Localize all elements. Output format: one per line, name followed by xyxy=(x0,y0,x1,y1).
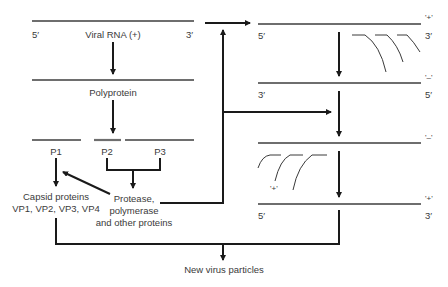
strand1-left-end: 5′ xyxy=(258,30,265,41)
capsid-label-line2: VP1, VP2, VP3, VP4 xyxy=(12,203,100,214)
nascent-minus-strand-3 xyxy=(397,35,420,52)
p2-p3-bracket xyxy=(107,158,160,170)
polyprotein-label: Polyprotein xyxy=(89,87,137,98)
strand1-right-end: 3′ xyxy=(425,30,432,41)
strand2-sense: '–' xyxy=(425,72,433,83)
nascent-plus-strand-2 xyxy=(275,155,303,181)
nascent-plus-strand-3 xyxy=(293,155,327,190)
strand1-sense: '+' xyxy=(425,12,433,23)
nascent-minus-strand-1 xyxy=(352,35,386,72)
progeny-rna-to-assembly-line xyxy=(223,210,339,244)
replication-diagram xyxy=(0,0,448,287)
protease-label-line2: polymerase xyxy=(109,205,158,216)
new-virus-particles-label: New virus particles xyxy=(184,264,264,275)
p3-label: P3 xyxy=(154,146,166,157)
strand4-left-end: 5′ xyxy=(258,210,265,221)
strand4-sense: '+' xyxy=(425,193,433,204)
nascent-plus-label: '+' xyxy=(270,183,278,194)
capsid-label-line1: Capsid proteins xyxy=(23,191,89,202)
nascent-plus-strand-1 xyxy=(258,155,281,168)
nascent-minus-strand-2 xyxy=(375,35,403,62)
viral-rna-label: Viral RNA (+) xyxy=(85,29,141,40)
protease-label-line1: Protease, xyxy=(114,193,155,204)
viral-rna-5prime: 5′ xyxy=(32,29,39,40)
strand4-right-end: 3′ xyxy=(425,210,432,221)
strand3-sense: '–' xyxy=(425,132,433,143)
p2-label: P2 xyxy=(101,146,113,157)
protease-to-replication-line xyxy=(160,30,223,203)
strand2-left-end: 3′ xyxy=(258,89,265,100)
viral-rna-3prime: 3′ xyxy=(186,29,193,40)
strand2-right-end: 5′ xyxy=(425,89,432,100)
p1-label: P1 xyxy=(50,146,62,157)
protease-label-line3: and other proteins xyxy=(96,217,173,228)
